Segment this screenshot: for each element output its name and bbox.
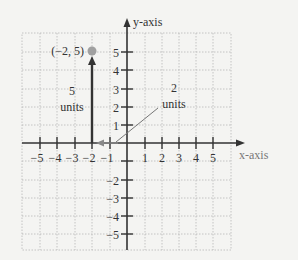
y-axis-arrow-icon <box>124 18 131 27</box>
y-tick-label: 4 <box>113 64 119 78</box>
point-label: (−2, 5) <box>51 44 84 58</box>
y-tick-label: −5 <box>106 228 119 242</box>
y-tick-label: 1 <box>113 119 119 133</box>
x-tick-label: 4 <box>193 151 199 165</box>
x-axis <box>22 137 245 149</box>
y-axis-label: y-axis <box>133 15 163 29</box>
x-tick-label: 2 <box>159 151 165 165</box>
y-tick-label: −4 <box>106 210 119 224</box>
horizontal-distance-unit: units <box>162 97 186 111</box>
point-marker <box>88 47 97 56</box>
x-tick-label: −1 <box>101 151 114 165</box>
y-tick-label: −2 <box>106 174 119 188</box>
y-axis <box>121 18 133 250</box>
y-tick-label: −3 <box>106 192 119 206</box>
left-arrow-icon <box>96 140 104 147</box>
x-tick-label: 1 <box>142 151 148 165</box>
vertical-distance-unit: units <box>60 100 84 114</box>
y-tick-labels: 5 4 3 2 1 −2 −3 −4 −5 <box>106 46 119 242</box>
x-tick-label: 3 <box>176 151 182 165</box>
coordinate-plane: −5 −4 −3 −2 −1 1 2 3 4 5 5 4 3 2 1 −2 −3… <box>0 0 298 260</box>
vertical-movement-arrow <box>88 56 96 143</box>
horizontal-distance-value: 2 <box>171 81 177 95</box>
y-tick-label: 3 <box>113 83 119 97</box>
x-tick-label: −3 <box>66 151 79 165</box>
vertical-distance-value: 5 <box>69 84 75 98</box>
x-tick-label: 5 <box>210 151 216 165</box>
x-axis-label: x-axis <box>239 148 269 162</box>
x-tick-label: −4 <box>49 151 62 165</box>
y-tick-label: 5 <box>113 46 119 60</box>
x-tick-label: −5 <box>31 151 44 165</box>
horizontal-movement-arrow <box>96 140 118 147</box>
up-arrow-icon <box>88 56 96 65</box>
y-tick-label: 2 <box>113 101 119 115</box>
x-tick-labels: −5 −4 −3 −2 −1 1 2 3 4 5 <box>31 151 216 165</box>
x-tick-label: −2 <box>83 151 96 165</box>
x-axis-arrow-icon <box>236 140 245 147</box>
